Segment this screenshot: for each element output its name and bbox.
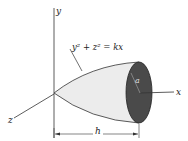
x-axis-label: x	[176, 88, 181, 97]
y-axis-label: y	[56, 7, 61, 16]
equation-label: y² + z² = kx	[72, 43, 123, 52]
z-axis	[14, 94, 54, 118]
length-label: h	[93, 127, 103, 136]
z-axis-label: z	[8, 116, 13, 125]
equation-leader	[70, 49, 82, 71]
paraboloid-diagram	[0, 0, 188, 141]
radius-label: a	[135, 77, 140, 85]
